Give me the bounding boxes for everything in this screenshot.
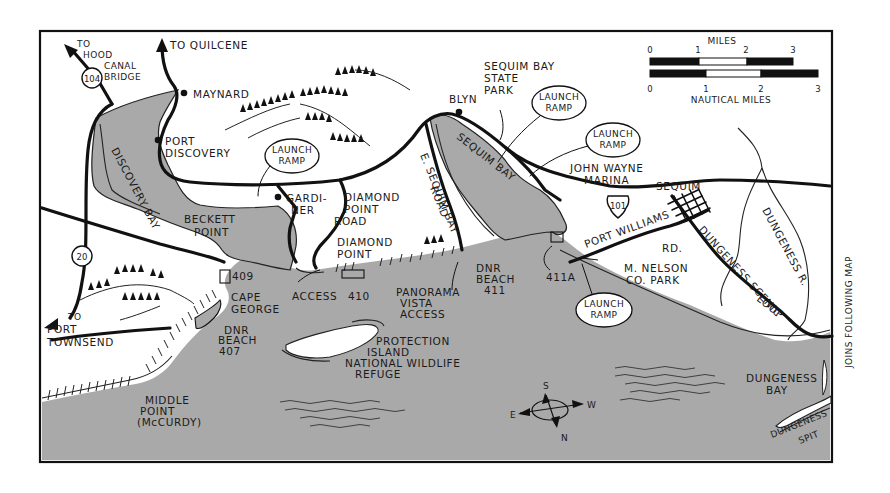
svg-text:E: E: [510, 410, 516, 420]
svg-text:RAMP: RAMP: [279, 156, 306, 166]
svg-text:TO: TO: [76, 39, 90, 49]
svg-text:POINT: POINT: [337, 248, 372, 260]
svg-text:DUNGENESS: DUNGENESS: [746, 372, 818, 384]
svg-text:CANAL: CANAL: [104, 61, 136, 71]
svg-text:(McCURDY): (McCURDY): [137, 416, 202, 428]
svg-text:TO QUILCENE: TO QUILCENE: [169, 39, 248, 51]
svg-text:3: 3: [790, 45, 795, 55]
svg-text:RAMP: RAMP: [600, 140, 627, 150]
svg-text:BAY: BAY: [766, 384, 788, 396]
svg-text:N: N: [561, 433, 568, 443]
svg-text:1: 1: [703, 84, 708, 94]
svg-text:411: 411: [484, 284, 506, 296]
shield-104: 104: [82, 68, 102, 88]
svg-text:BRIDGE: BRIDGE: [104, 72, 141, 82]
svg-text:411A: 411A: [546, 271, 576, 283]
svg-text:DISCOVERY: DISCOVERY: [165, 147, 231, 159]
svg-text:407: 407: [219, 345, 241, 357]
svg-text:3: 3: [815, 84, 820, 94]
shield-20: 20: [72, 246, 92, 266]
gardiner-dot-icon: [275, 194, 282, 201]
svg-text:RAMP: RAMP: [546, 103, 573, 113]
svg-text:NAUTICAL MILES: NAUTICAL MILES: [691, 95, 771, 105]
svg-text:2: 2: [743, 45, 748, 55]
svg-text:LAUNCH: LAUNCH: [272, 145, 312, 155]
svg-text:104: 104: [84, 74, 100, 84]
blyn-dot-icon: [456, 109, 463, 116]
svg-text:0: 0: [647, 45, 652, 55]
svg-text:POINT: POINT: [194, 226, 229, 238]
svg-text:20: 20: [77, 252, 88, 262]
svg-text:TO: TO: [67, 312, 81, 322]
maynard-dot-icon: [181, 90, 188, 97]
svg-text:RAMP: RAMP: [591, 310, 618, 320]
svg-text:PARK: PARK: [484, 84, 514, 96]
joins-following-map-note: JOINS FOLLOWING MAP: [844, 256, 854, 369]
svg-text:HOOD: HOOD: [83, 50, 112, 60]
svg-text:NER: NER: [291, 204, 315, 216]
svg-text:1: 1: [695, 45, 700, 55]
svg-text:PORT: PORT: [47, 323, 77, 335]
sequim-area-map: 104 20 101 LAUNCH RAMP LAUNCH RAMP LAUNC…: [0, 0, 890, 493]
svg-text:409: 409: [232, 270, 254, 282]
svg-text:LAUNCH: LAUNCH: [584, 299, 624, 309]
svg-text:2: 2: [758, 84, 763, 94]
svg-text:TOWNSEND: TOWNSEND: [46, 336, 114, 348]
svg-text:BLYN: BLYN: [449, 93, 477, 105]
svg-text:STATE: STATE: [484, 72, 519, 84]
svg-text:MILES: MILES: [708, 36, 737, 46]
svg-text:LAUNCH: LAUNCH: [593, 129, 633, 139]
svg-text:DIAMOND: DIAMOND: [344, 191, 400, 203]
svg-text:MAYNARD: MAYNARD: [193, 88, 249, 100]
svg-text:101: 101: [610, 201, 626, 211]
svg-text:W: W: [587, 400, 596, 410]
svg-text:M. NELSON: M. NELSON: [624, 262, 688, 274]
svg-text:DIAMOND: DIAMOND: [337, 236, 393, 248]
svg-text:CAPE: CAPE: [231, 291, 261, 303]
svg-text:JOHN WAYNE: JOHN WAYNE: [569, 162, 644, 174]
svg-text:RD.: RD.: [662, 242, 683, 254]
svg-text:GARDI-: GARDI-: [286, 192, 327, 204]
svg-text:ROAD: ROAD: [334, 215, 367, 227]
svg-text:SEQUIM BAY: SEQUIM BAY: [484, 60, 555, 72]
svg-text:ACCESS: ACCESS: [400, 308, 445, 320]
svg-text:PORT: PORT: [165, 135, 195, 147]
svg-text:POINT: POINT: [344, 203, 379, 215]
svg-text:LAUNCH: LAUNCH: [539, 92, 579, 102]
svg-text:REFUGE: REFUGE: [355, 368, 401, 380]
svg-text:MARINA: MARINA: [584, 174, 629, 186]
svg-text:BECKETT: BECKETT: [184, 213, 236, 225]
svg-text:GEORGE: GEORGE: [231, 303, 280, 315]
svg-text:S: S: [543, 381, 549, 391]
svg-text:ACCESS: ACCESS: [292, 290, 337, 302]
svg-text:CO. PARK: CO. PARK: [626, 274, 680, 286]
svg-text:410: 410: [348, 290, 370, 302]
svg-text:SEQUIM: SEQUIM: [656, 180, 701, 192]
svg-text:0: 0: [647, 84, 652, 94]
port-discovery-dot-icon: [155, 137, 162, 144]
